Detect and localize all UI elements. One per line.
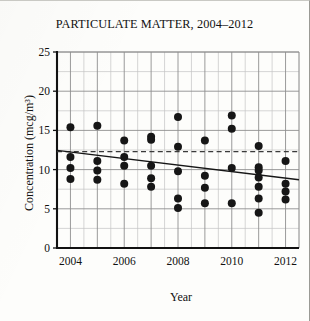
data-point <box>228 164 236 172</box>
data-point <box>282 195 290 203</box>
data-point <box>282 180 290 188</box>
scatter-plot: 051015202520042006200820102012 Year Conc… <box>0 1 310 321</box>
x-tick-label: 2006 <box>113 255 136 267</box>
data-point <box>255 209 263 217</box>
data-point <box>255 183 263 191</box>
y-tick-label: 15 <box>39 124 51 136</box>
data-point <box>255 166 263 174</box>
data-point <box>201 137 209 145</box>
y-tick-label: 0 <box>44 242 50 254</box>
x-tick-label: 2012 <box>274 255 297 267</box>
data-point <box>255 142 263 150</box>
data-point <box>174 204 182 212</box>
data-point <box>255 173 263 181</box>
y-tick-label: 5 <box>44 203 50 215</box>
data-point <box>120 137 128 145</box>
data-point <box>66 153 74 161</box>
data-point <box>120 180 128 188</box>
y-tick-label: 10 <box>39 164 51 176</box>
data-point <box>120 153 128 161</box>
data-point <box>174 195 182 203</box>
data-point <box>147 162 155 170</box>
figure-page: PARTICULATE MATTER, 2004–2012 0510152025… <box>0 0 310 321</box>
y-tick-label: 20 <box>39 85 51 97</box>
data-point <box>147 174 155 182</box>
data-point <box>282 188 290 196</box>
data-point <box>228 199 236 207</box>
data-point <box>174 167 182 175</box>
data-point <box>93 157 101 165</box>
data-point <box>147 183 155 191</box>
data-point <box>66 123 74 131</box>
data-point <box>255 195 263 203</box>
y-tick-label: 25 <box>39 46 51 58</box>
data-point <box>201 172 209 180</box>
data-point <box>201 199 209 207</box>
x-tick-label: 2010 <box>220 255 243 267</box>
data-point <box>66 175 74 183</box>
x-tick-label: 2004 <box>59 255 82 267</box>
data-point <box>228 112 236 120</box>
x-tick-label: 2008 <box>167 255 190 267</box>
plot-svg: 051015202520042006200820102012 Year Conc… <box>0 1 310 321</box>
data-point <box>120 162 128 170</box>
data-point <box>174 143 182 151</box>
data-point <box>282 157 290 165</box>
data-point <box>201 184 209 192</box>
data-point <box>228 125 236 133</box>
x-axis-title: Year <box>170 290 192 304</box>
y-axis-title: Concentration (mcg/m³) <box>22 95 36 211</box>
data-point <box>93 176 101 184</box>
data-point <box>93 166 101 174</box>
data-point <box>147 136 155 144</box>
data-point <box>66 164 74 172</box>
data-point <box>93 122 101 130</box>
data-point <box>174 113 182 121</box>
